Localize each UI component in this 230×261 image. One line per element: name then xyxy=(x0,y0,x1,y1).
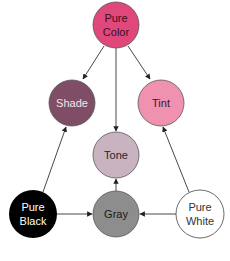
edge-black-shade xyxy=(43,127,66,192)
node-shade: Shade xyxy=(49,80,95,126)
edge-purecolor-shade xyxy=(83,46,104,79)
node-pure-color-line1: Pure xyxy=(104,12,127,24)
node-tone: Tone xyxy=(93,132,139,178)
node-pure-white-line1: Pure xyxy=(188,201,211,213)
edge-purecolor-tint xyxy=(128,46,150,79)
color-mixing-diagram: Pure Color Shade Tint Tone Gray Pure Bla… xyxy=(0,0,230,261)
node-pure-color-line2: Color xyxy=(103,26,130,38)
node-shade-label: Shade xyxy=(56,97,88,109)
node-pure-white-line2: White xyxy=(186,215,214,227)
node-pure-black-line2: Black xyxy=(20,215,47,227)
node-pure-white: Pure White xyxy=(176,190,224,238)
node-pure-black-line1: Pure xyxy=(21,201,44,213)
edge-white-tint xyxy=(163,127,189,192)
node-pure-color: Pure Color xyxy=(93,2,139,48)
node-pure-black: Pure Black xyxy=(9,190,57,238)
node-tone-label: Tone xyxy=(104,149,128,161)
node-gray-label: Gray xyxy=(104,208,128,220)
node-tint-label: Tint xyxy=(152,97,170,109)
node-gray: Gray xyxy=(93,191,139,237)
node-tint: Tint xyxy=(138,80,184,126)
